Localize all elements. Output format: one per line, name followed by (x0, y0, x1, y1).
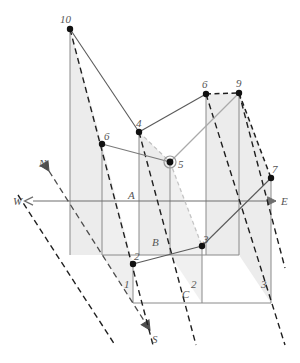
node-7[interactable] (268, 175, 274, 181)
node-label-4: 4 (136, 117, 142, 129)
node-4[interactable] (136, 129, 142, 135)
block-diagram-svg: 10 6 4 5 6 9 7 3 2 A B C 1 2 3 W E N S (0, 0, 300, 363)
level-label-b: B (152, 236, 159, 248)
node-label-7: 7 (272, 163, 278, 175)
node-label-5: 5 (178, 158, 184, 170)
edge-4-6right (139, 94, 206, 132)
compass-label-east: E (280, 195, 288, 207)
node-label-10: 10 (60, 13, 72, 25)
panel-mid-b (170, 162, 202, 303)
node-label-6-left: 6 (104, 130, 110, 142)
node-6-right[interactable] (203, 91, 209, 97)
panel-left-back (70, 29, 102, 255)
node-9[interactable] (236, 90, 242, 96)
tick-labels: 1 2 3 (124, 278, 267, 290)
node-5[interactable] (167, 159, 174, 166)
tick-label-3: 3 (260, 278, 267, 290)
node-label-9: 9 (236, 77, 242, 89)
compass-label-west: W (13, 195, 23, 207)
compass-label-north: N (38, 157, 47, 169)
panel-right-skew (239, 93, 271, 303)
level-label-c: C (182, 288, 190, 300)
panel-right-a (206, 93, 239, 255)
level-label-a: A (127, 189, 135, 201)
node-label-2-mid: 2 (134, 250, 140, 262)
tick-label-1: 1 (124, 278, 130, 290)
node-10[interactable] (67, 26, 73, 32)
compass-label-south: S (152, 333, 158, 345)
node-label-3-mid: 3 (202, 233, 209, 245)
figure-canvas: 10 6 4 5 6 9 7 3 2 A B C 1 2 3 W E N S (0, 0, 300, 363)
tick-label-2: 2 (191, 278, 197, 290)
node-label-6-right: 6 (202, 78, 208, 90)
